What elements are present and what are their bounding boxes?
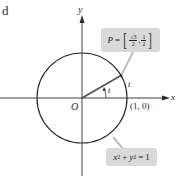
equation-rhs: 1 <box>145 152 150 162</box>
point-p-name: P <box>108 35 114 45</box>
y-numerator: 1 <box>141 34 146 41</box>
point-p-marker <box>120 74 123 77</box>
radius-segment <box>82 76 121 99</box>
stray-glyph: d <box>2 4 9 17</box>
circle-equation-callout: x2 + y2 = 1 <box>106 148 157 166</box>
x-numerator: √3 <box>129 34 137 41</box>
equation-y-exponent: 2 <box>133 154 136 160</box>
x-axis-arrow-icon <box>162 96 170 101</box>
coordinate-separator: , <box>138 36 140 45</box>
equation-equals: = <box>138 152 143 162</box>
angle-arrow-icon <box>103 87 107 91</box>
origin-label: O <box>71 102 78 112</box>
x-coordinate-fraction: √3 2 <box>129 34 137 47</box>
y-denominator: 2 <box>142 41 145 47</box>
left-bracket-icon: [ <box>123 33 127 47</box>
x-axis-label: x <box>171 93 175 102</box>
point-p-equals: = <box>115 35 120 45</box>
arc-length-label: t <box>128 80 131 89</box>
y-axis-arrow-icon <box>80 15 85 23</box>
equation-x-exponent: 2 <box>117 154 120 160</box>
right-bracket-icon: ] <box>149 33 153 47</box>
y-axis-label: y <box>78 5 82 15</box>
point-1-0-label: (1, 0) <box>130 102 150 111</box>
point-p-callout: P = [ √3 2 , 1 2 ] <box>101 28 160 52</box>
x-denominator: 2 <box>132 41 135 47</box>
angle-arc <box>105 90 107 99</box>
y-coordinate-fraction: 1 2 <box>141 34 146 47</box>
angle-label: t <box>108 86 111 95</box>
equation-plus: + <box>122 152 127 162</box>
p-callout-leader <box>122 52 133 74</box>
